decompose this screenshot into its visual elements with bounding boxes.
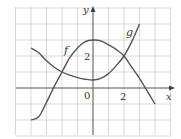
y-axis-label: y: [82, 4, 89, 15]
origin-label: 0: [84, 90, 90, 101]
x-axis-label: x: [166, 91, 172, 102]
curve-f-label: f: [63, 44, 70, 57]
y-tick-label-2: 2: [84, 51, 90, 62]
curve-g-label: g: [126, 26, 133, 39]
function-graph: y x 0 2 2 f g: [0, 0, 181, 139]
x-tick-label-2: 2: [120, 91, 126, 102]
y-axis-arrow-icon: [91, 6, 96, 12]
x-axis-arrow-icon: [169, 86, 175, 91]
